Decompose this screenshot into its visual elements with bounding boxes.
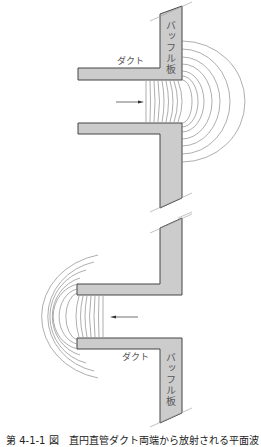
lower-duct-label: ダクト — [122, 353, 149, 362]
upper-plane-waves — [146, 81, 182, 122]
figure-caption: 第 4-1-1 図 直円直管ダクト両端から放射される平面波 — [6, 432, 259, 447]
lower-plane-waves — [76, 296, 103, 337]
upper-duct-label: ダクト — [117, 57, 144, 66]
lower-baffle-label: バッフル板 — [164, 352, 174, 407]
upper-diagram — [78, 2, 245, 218]
upper-duct-bottom-wall — [78, 123, 182, 208]
lower-duct-top-wall — [77, 218, 182, 295]
upper-radiating-arcs — [182, 41, 245, 162]
upper-baffle-label: バッフル板 — [164, 20, 174, 75]
upper-arrow-right-icon — [116, 101, 144, 104]
lower-arrow-left-icon — [110, 316, 138, 319]
